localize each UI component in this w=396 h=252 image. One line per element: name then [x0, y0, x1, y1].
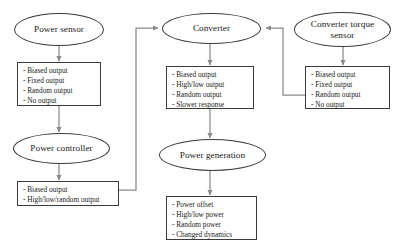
node-converter-torque-sensor-label-line1: Converter torque — [311, 19, 374, 30]
box-power-sensor-faults[interactable]: - Biased output - Fixed output - Random … — [17, 62, 101, 106]
node-power-controller[interactable]: Power controller — [13, 133, 110, 164]
box-torque-sensor-faults[interactable]: - Biased output - Fixed output - Random … — [305, 66, 390, 109]
node-power-sensor-label: Power sensor — [34, 24, 84, 35]
fault-item: - Biased output — [311, 70, 389, 80]
diagram-canvas: Power sensor - Biased output - Fixed out… — [0, 0, 396, 252]
fault-item: - Biased output — [23, 185, 118, 195]
node-converter[interactable]: Converter — [162, 13, 261, 44]
node-power-generation[interactable]: Power generation — [159, 139, 266, 171]
node-power-generation-label: Power generation — [180, 150, 245, 161]
node-power-controller-label: Power controller — [30, 143, 92, 154]
fault-item: - Random output — [172, 90, 253, 100]
node-converter-label: Converter — [193, 23, 230, 34]
box-converter-faults[interactable]: - Biased output - High/low output - Rand… — [166, 66, 254, 109]
node-power-sensor[interactable]: Power sensor — [14, 13, 104, 46]
node-converter-torque-sensor-label-line2: sensor — [331, 30, 355, 41]
box-power-controller-faults[interactable]: - Biased output - High/low/random output — [17, 181, 119, 206]
fault-item: - High/low power — [172, 210, 256, 220]
fault-item: - Random power — [172, 220, 256, 230]
connector-torque-sensor-faults-to-converter — [266, 28, 305, 95]
fault-item: - High/low/random output — [23, 195, 118, 205]
fault-item: - No output — [311, 100, 389, 110]
fault-item: - Slower response — [172, 100, 253, 110]
fault-item: - Random output — [311, 90, 389, 100]
fault-item: - Fixed output — [311, 80, 389, 90]
fault-item: - Biased output — [172, 70, 253, 80]
fault-item: - High/low output — [172, 80, 253, 90]
node-converter-torque-sensor[interactable]: Converter torque sensor — [294, 12, 391, 47]
fault-item: - Random output — [23, 86, 100, 96]
fault-item: - No output — [23, 96, 100, 106]
box-power-generation-faults[interactable]: - Power offset - High/low power - Random… — [166, 196, 257, 240]
fault-item: - Power offset — [172, 200, 256, 210]
fault-item: - Fixed output — [23, 76, 100, 86]
fault-item: - Changed dynamics — [172, 230, 256, 240]
connector-power-controller-faults-to-converter — [119, 28, 158, 190]
fault-item: - Biased output — [23, 66, 100, 76]
